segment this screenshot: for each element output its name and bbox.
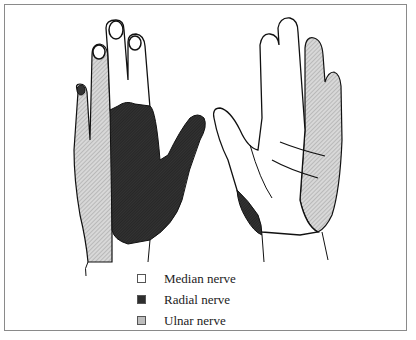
legend-item-ulnar: Ulnar nerve bbox=[137, 310, 236, 331]
ulnar-swatch bbox=[137, 316, 146, 325]
legend-label: Ulnar nerve bbox=[164, 313, 226, 329]
legend: Median nerve Radial nerve Ulnar nerve bbox=[137, 268, 236, 331]
legend-label: Median nerve bbox=[164, 271, 236, 287]
ulnar-region-dorsal bbox=[74, 44, 112, 262]
legend-item-radial: Radial nerve bbox=[137, 289, 236, 310]
median-swatch bbox=[137, 274, 146, 283]
dorsal-hand bbox=[74, 20, 205, 276]
radial-swatch bbox=[137, 295, 146, 304]
legend-label: Radial nerve bbox=[164, 292, 230, 308]
ulnar-region-palmar bbox=[300, 38, 342, 232]
radial-region-dorsal bbox=[110, 102, 205, 244]
legend-item-median: Median nerve bbox=[137, 268, 236, 289]
palmar-hand bbox=[214, 18, 342, 262]
